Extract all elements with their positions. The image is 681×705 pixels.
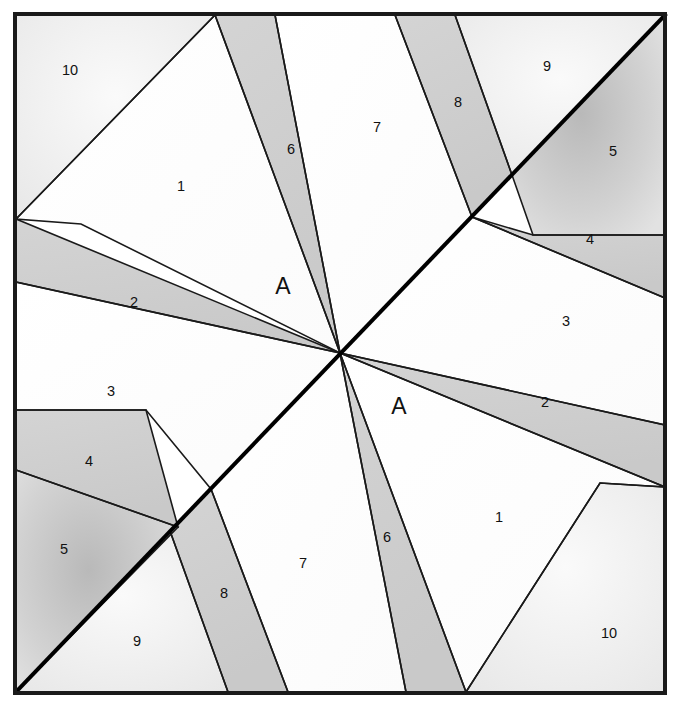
region-number-label-10-bottom-right: 10 bbox=[601, 625, 617, 641]
region-number-label-4-top-right: 4 bbox=[586, 231, 594, 247]
region-number-label-10-top-left: 10 bbox=[62, 62, 78, 78]
region-number-label-5-bottom-left: 5 bbox=[60, 541, 68, 557]
region-number-label-1-top-left: 1 bbox=[177, 178, 185, 194]
region-number-label-6-bottom: 6 bbox=[383, 529, 391, 545]
region-letter-label-A-lower: A bbox=[391, 393, 407, 419]
region-number-label-2-right: 2 bbox=[541, 394, 549, 410]
region-number-label-6-top: 6 bbox=[287, 141, 295, 157]
region-number-label-9-top-right: 9 bbox=[543, 58, 551, 74]
region-number-label-7-top: 7 bbox=[373, 119, 381, 135]
region-number-label-9-bottom-left: 9 bbox=[133, 633, 141, 649]
diagram-canvas: 1016789542332415768910AA bbox=[0, 0, 681, 705]
region-number-label-3-left: 3 bbox=[107, 383, 115, 399]
region-number-label-7-bottom: 7 bbox=[299, 555, 307, 571]
region-number-label-8-top: 8 bbox=[454, 94, 462, 110]
region-number-label-4-left: 4 bbox=[85, 453, 93, 469]
region-number-label-5-top-right: 5 bbox=[609, 143, 617, 159]
dissection-diagram: 1016789542332415768910AA bbox=[0, 0, 681, 705]
region-number-label-2-left: 2 bbox=[130, 294, 138, 310]
region-letter-label-A-upper: A bbox=[275, 273, 291, 299]
region-number-label-1-bottom-right: 1 bbox=[495, 509, 503, 525]
region-number-label-3-right: 3 bbox=[562, 313, 570, 329]
region-number-label-8-bottom: 8 bbox=[220, 585, 228, 601]
